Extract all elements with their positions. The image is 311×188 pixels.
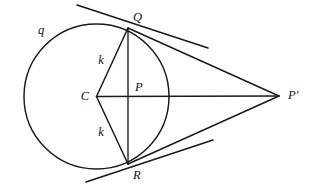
tangent-line-at-q — [77, 5, 208, 48]
label-radius-k-top: k — [98, 53, 104, 67]
label-point-q: Q — [133, 10, 142, 24]
label-center-c: C — [81, 89, 90, 103]
label-radius-k-bottom: k — [98, 125, 104, 139]
geometry-canvas: q C P Q R P′ k k — [0, 0, 311, 188]
label-circle-q: q — [38, 23, 44, 37]
label-point-p-prime: P′ — [287, 88, 299, 102]
label-point-r: R — [132, 168, 141, 182]
segment-tangent-q-pprime — [128, 28, 279, 96]
segment-axis-c-pprime — [97, 96, 280, 97]
label-point-p: P — [134, 80, 143, 94]
segment-tangent-r-pprime — [128, 96, 279, 164]
geometry-figure: q C P Q R P′ k k — [0, 0, 311, 188]
